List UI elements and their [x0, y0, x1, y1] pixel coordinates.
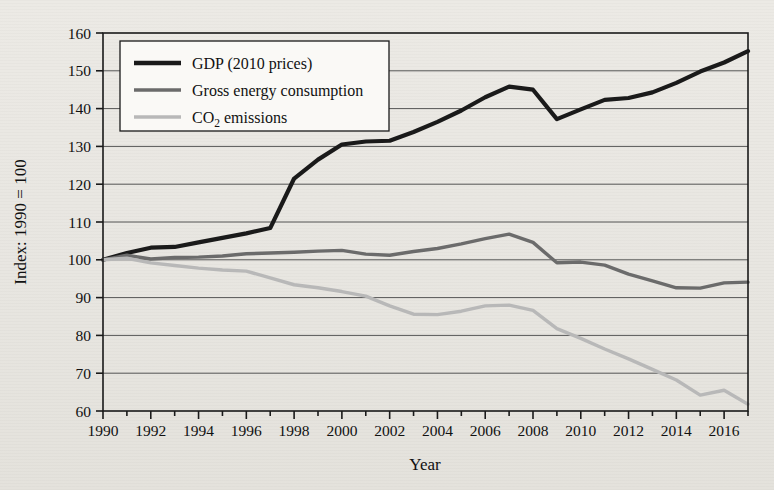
y-tick-label: 110 [68, 214, 91, 231]
x-tick-label: 1996 [231, 422, 262, 439]
y-axis-title: Index: 1990 = 100 [11, 159, 30, 284]
chart-legend: GDP (2010 prices)Gross energy consumptio… [120, 41, 389, 131]
y-tick-label: 100 [68, 251, 92, 268]
y-tick-label: 60 [76, 403, 92, 420]
y-axis-ticks: 60708090100110120130140150160 [68, 25, 103, 420]
x-tick-label: 2016 [709, 422, 740, 439]
y-tick-label: 90 [76, 289, 92, 306]
x-tick-label: 2004 [422, 422, 453, 439]
y-tick-label: 160 [68, 25, 92, 42]
x-tick-label: 2012 [613, 422, 644, 439]
y-tick-label: 140 [68, 100, 92, 117]
x-tick-label: 2006 [470, 422, 501, 439]
x-tick-label: 1994 [183, 422, 214, 439]
legend-label-1: Gross energy consumption [192, 82, 363, 100]
x-tick-label: 1992 [135, 422, 166, 439]
legend-label-0: GDP (2010 prices) [192, 55, 312, 73]
x-tick-label: 2014 [661, 422, 692, 439]
line-chart: 60708090100110120130140150160 1990199219… [0, 0, 774, 490]
x-tick-label: 1998 [279, 422, 310, 439]
y-tick-label: 70 [76, 365, 92, 382]
x-tick-label: 1990 [88, 422, 119, 439]
x-tick-label: 2008 [518, 422, 549, 439]
x-axis-title: Year [409, 455, 441, 474]
x-tick-label: 2000 [326, 422, 357, 439]
y-tick-label: 130 [68, 138, 92, 155]
chart-figure: 60708090100110120130140150160 1990199219… [0, 0, 774, 490]
x-axis-ticks: 1990199219941996199820002002200420062008… [88, 411, 749, 439]
y-tick-label: 80 [76, 327, 92, 344]
y-tick-label: 120 [68, 176, 92, 193]
x-tick-label: 2010 [565, 422, 596, 439]
y-tick-label: 150 [68, 62, 92, 79]
x-tick-label: 2002 [374, 422, 405, 439]
